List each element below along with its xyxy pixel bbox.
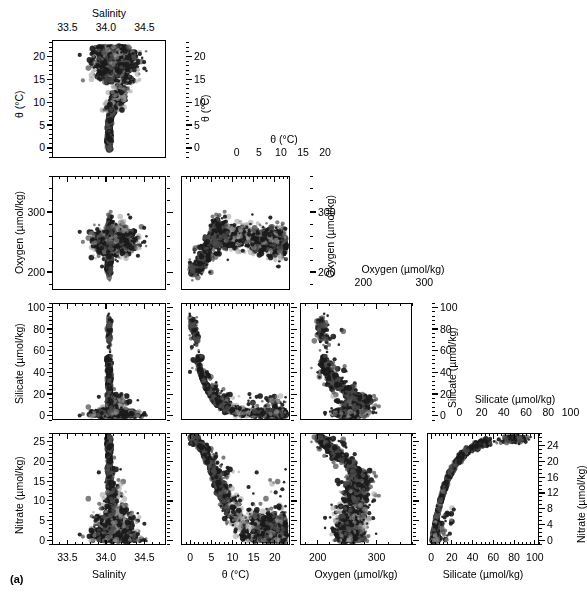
scatter-points-oxygen-silicate: [301, 304, 413, 421]
bottom-ticklabel-oxygen: 300: [361, 552, 393, 563]
bottom-ticklabel-theta: 20: [259, 552, 291, 563]
bottom-ticklabel-salinity: 34.5: [128, 552, 160, 563]
scatter-points-theta-oxygen: [182, 177, 291, 291]
yticklabel-oxygen-row2: 300: [15, 207, 45, 218]
bottom-ticklabel-salinity: 33.5: [51, 552, 83, 563]
panel-theta-nitrate[interactable]: [181, 433, 290, 545]
yticklabel-nitrate-row4: 25: [15, 436, 45, 447]
diag2-xticklabel-oxygen: 300: [408, 277, 440, 288]
ylabel-oxygen-row2: Oxygen (µmol/kg): [14, 191, 25, 274]
scatter-points-salinity-nitrate: [53, 434, 167, 546]
yticklabel-theta-row1: 20: [15, 51, 45, 62]
diag3-xticklabel-silicate: 100: [555, 407, 587, 418]
yticklabel-silicate-row3: 60: [15, 345, 45, 356]
bottom-xlabel-theta: θ (°C): [181, 569, 290, 580]
scatter-points-salinity-theta: [53, 41, 167, 159]
bottom-xlabel-salinity: Salinity: [52, 569, 166, 580]
yticklabel-theta-row1: 15: [15, 74, 45, 85]
yticklabel-silicate-row3: 40: [15, 367, 45, 378]
yticklabel-nitrate-row4: 0: [15, 535, 45, 546]
yticklabel-theta-row1: 5: [15, 120, 45, 131]
top-ticklabel-salinity: 33.5: [51, 22, 83, 33]
diag1-xlabel-theta: θ (°C): [227, 134, 341, 145]
top-axis-title-salinity: Salinity: [52, 8, 166, 19]
panel-theta-oxygen[interactable]: [181, 176, 290, 290]
right-ylabel-nitrate: Nitrate (µmol/kg): [576, 465, 587, 543]
scatter-points-salinity-oxygen: [53, 177, 167, 291]
yticklabel-nitrate-row4: 10: [15, 495, 45, 506]
figure-caption: (a): [10, 573, 23, 585]
yticklabel-silicate-row3: 100: [15, 302, 45, 313]
yticklabel-theta-row1: 0: [15, 142, 45, 153]
panel-oxygen-nitrate[interactable]: [300, 433, 412, 545]
right-ticklabel-nitrate: 12: [547, 487, 559, 498]
scatter-points-salinity-silicate: [53, 304, 167, 421]
yticklabel-nitrate-row4: 20: [15, 456, 45, 467]
diag2-xticklabel-oxygen: 200: [347, 277, 379, 288]
right-ticklabel-nitrate: 16: [547, 472, 559, 483]
scatter-points-theta-nitrate: [182, 434, 291, 546]
panel-salinity-nitrate[interactable]: [52, 433, 166, 545]
diag1-xticklabel-theta: 20: [309, 147, 341, 158]
diag3-xlabel-silicate: Silicate (µmol/kg): [455, 394, 575, 405]
top-ticklabel-salinity: 34.5: [128, 22, 160, 33]
panel-silicate-nitrate[interactable]: [427, 433, 539, 545]
top-ticklabel-salinity: 34.0: [90, 22, 122, 33]
scatter-points-oxygen-nitrate: [301, 434, 413, 546]
bottom-xlabel-silicate: Silicate (µmol/kg): [423, 569, 543, 580]
figure-canvas: Salinity 33.534.034.5 θ (°C) 05101520 05…: [0, 0, 587, 592]
diag2-xlabel-oxygen: Oxygen (µmol/kg): [345, 264, 461, 275]
diag1-ylabel-theta: θ (°C): [200, 94, 211, 122]
right-ticklabel-nitrate: 8: [547, 503, 553, 514]
panel-salinity-silicate[interactable]: [52, 303, 166, 420]
scatter-points-theta-silicate: [182, 304, 291, 421]
yticklabel-silicate-row3: 80: [15, 324, 45, 335]
yticklabel-nitrate-row4: 5: [15, 515, 45, 526]
bottom-ticklabel-silicate: 100: [519, 552, 551, 563]
bottom-ticklabel-oxygen: 200: [302, 552, 334, 563]
diag1-yticklabel-theta: 15: [194, 74, 206, 85]
right-ticklabel-nitrate: 0: [547, 535, 553, 546]
yticklabel-oxygen-row2: 200: [15, 267, 45, 278]
right-ticklabel-nitrate: 4: [547, 519, 553, 530]
yticklabel-silicate-row3: 0: [15, 410, 45, 421]
bottom-xlabel-oxygen: Oxygen (µmol/kg): [296, 569, 416, 580]
yticklabel-theta-row1: 10: [15, 97, 45, 108]
scatter-points-silicate-nitrate: [428, 434, 540, 546]
yticklabel-silicate-row3: 20: [15, 389, 45, 400]
diag3-yticklabel-silicate: 100: [440, 302, 458, 313]
bottom-ticklabel-salinity: 34.0: [90, 552, 122, 563]
diag1-yticklabel-theta: 20: [194, 51, 206, 62]
right-ticklabel-nitrate: 20: [547, 456, 559, 467]
diag1-yticklabel-theta: 0: [194, 142, 200, 153]
panel-salinity-theta[interactable]: [52, 40, 166, 158]
right-ticklabel-nitrate: 24: [547, 440, 559, 451]
yticklabel-nitrate-row4: 15: [15, 476, 45, 487]
panel-oxygen-silicate[interactable]: [300, 303, 412, 420]
panel-theta-silicate[interactable]: [181, 303, 290, 420]
diag2-ylabel-oxygen: Oxygen (µmol/kg): [325, 195, 336, 278]
panel-salinity-oxygen[interactable]: [52, 176, 166, 290]
